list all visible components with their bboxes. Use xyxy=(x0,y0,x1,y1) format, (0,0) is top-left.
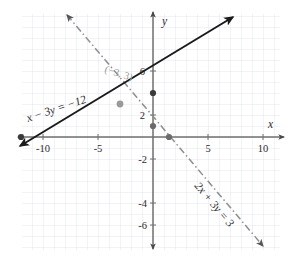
x-tick-label-neg5: -5 xyxy=(94,143,103,154)
x-tick-label-10: 10 xyxy=(258,143,269,154)
point-y-intercept-line2 xyxy=(150,123,156,129)
y-tick-label-2: 2 xyxy=(140,110,145,121)
point-y-intercept-line1 xyxy=(150,90,156,96)
y-tick-label-neg2: -2 xyxy=(138,154,147,165)
y-tick-label-neg4: -4 xyxy=(138,198,147,209)
x-tick-label-5: 5 xyxy=(205,143,210,154)
graph-svg: -10 -5 5 10 6 2 -2 -4 -6 y x x − 3y = −1… xyxy=(0,0,298,261)
point-x-intercept-line1 xyxy=(18,134,24,140)
point-x-intercept-line2 xyxy=(166,134,172,140)
grid-background xyxy=(22,14,280,250)
y-axis-label: y xyxy=(161,15,168,28)
point-intersection xyxy=(117,101,124,108)
x-axis-label: x xyxy=(267,118,274,130)
y-tick-label-neg6: -6 xyxy=(138,220,147,231)
coordinate-plane-figure: -10 -5 5 10 6 2 -2 -4 -6 y x x − 3y = −1… xyxy=(0,0,298,261)
x-tick-label-neg10: -10 xyxy=(36,143,50,154)
